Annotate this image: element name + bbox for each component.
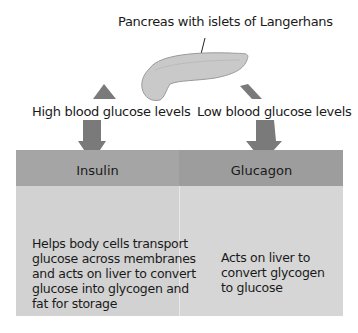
high-glucose-label: High blood glucose levels <box>32 104 190 119</box>
low-glucose-label: Low blood glucose levels <box>197 104 351 119</box>
glucagon-name: Glucagon <box>180 163 343 178</box>
arrow-up-right-icon <box>240 84 262 99</box>
insulin-description: Helps body cells transport glucose acros… <box>32 236 196 311</box>
glucagon-description: Acts on liver to convert glycogen to glu… <box>221 250 325 295</box>
hormone-table: Insulin Glucagon Helps body cells transp… <box>16 150 343 316</box>
insulin-name: Insulin <box>16 163 179 178</box>
arrow-up-left-icon <box>93 84 116 99</box>
